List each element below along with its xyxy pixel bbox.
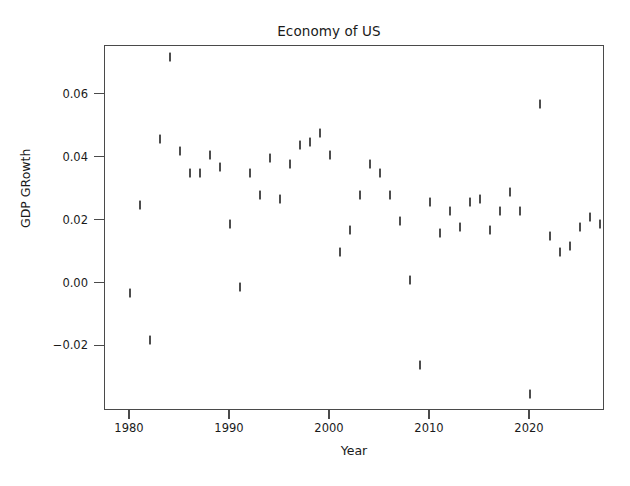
chart-title-text: Economy of US: [277, 23, 381, 39]
y-tick-mark: [94, 93, 104, 94]
data-point: [459, 222, 461, 231]
data-point: [529, 389, 531, 398]
y-tick-mark: [94, 156, 104, 157]
data-point: [209, 150, 211, 159]
data-point: [229, 219, 231, 228]
matplotlib-figure: Economy of US GDP GRowth −0.020.000.020.…: [0, 0, 630, 486]
data-point: [299, 141, 301, 150]
data-point: [449, 207, 451, 216]
data-point: [199, 169, 201, 178]
data-point: [149, 336, 151, 345]
data-point: [569, 241, 571, 250]
x-tick-mark: [428, 410, 429, 419]
x-tick-mark: [528, 410, 529, 419]
data-point: [349, 226, 351, 235]
data-point: [309, 137, 311, 146]
data-point: [539, 100, 541, 109]
data-point: [219, 163, 221, 172]
data-point: [289, 159, 291, 168]
data-point: [159, 134, 161, 143]
data-point: [329, 150, 331, 159]
data-point: [589, 213, 591, 222]
data-point: [359, 191, 361, 200]
y-tick-mark: [94, 219, 104, 220]
x-tick-label: 2020: [514, 421, 543, 435]
x-tick-label: 1980: [114, 421, 143, 435]
data-point: [369, 159, 371, 168]
y-tick-label: 0.04: [32, 150, 88, 164]
data-point: [499, 207, 501, 216]
x-tick-mark: [328, 410, 329, 419]
data-point: [239, 282, 241, 291]
plot-area[interactable]: [104, 45, 604, 410]
data-point: [169, 53, 171, 62]
data-point: [379, 169, 381, 178]
x-tick-mark: [228, 410, 229, 419]
x-tick-label: 1990: [214, 421, 243, 435]
data-point: [559, 248, 561, 257]
data-point: [139, 200, 141, 209]
data-point: [189, 169, 191, 178]
data-point: [419, 361, 421, 370]
x-tick-label: 2010: [414, 421, 443, 435]
data-point: [479, 194, 481, 203]
y-tick-label: 0.00: [32, 276, 88, 290]
y-tick-label: 0.06: [32, 87, 88, 101]
data-point: [409, 276, 411, 285]
data-point: [269, 153, 271, 162]
data-point: [179, 147, 181, 156]
data-point: [599, 219, 601, 228]
data-point: [259, 191, 261, 200]
data-point: [579, 222, 581, 231]
y-tick-mark: [94, 282, 104, 283]
data-point: [319, 128, 321, 137]
data-point: [469, 197, 471, 206]
data-point: [549, 232, 551, 241]
data-point: [509, 188, 511, 197]
data-point: [439, 229, 441, 238]
x-axis-label: Year: [104, 443, 604, 458]
data-point: [249, 169, 251, 178]
data-point: [399, 216, 401, 225]
y-axis-label: GDP GRowth: [18, 149, 33, 228]
x-tick-label: 2000: [314, 421, 343, 435]
y-tick-mark: [94, 345, 104, 346]
data-point: [339, 248, 341, 257]
data-point: [279, 194, 281, 203]
data-point: [129, 289, 131, 298]
data-point: [389, 191, 391, 200]
data-point: [429, 197, 431, 206]
x-tick-mark: [128, 410, 129, 419]
data-point: [519, 207, 521, 216]
y-tick-label: 0.02: [32, 213, 88, 227]
chart-title: Economy of US: [0, 23, 630, 39]
data-point: [489, 226, 491, 235]
y-tick-label: −0.02: [32, 338, 88, 352]
